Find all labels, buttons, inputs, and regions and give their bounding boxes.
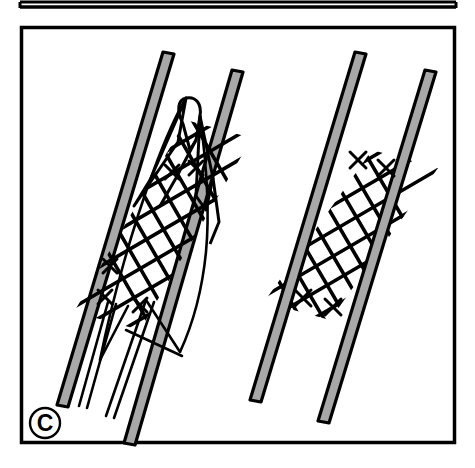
figure-root: C xyxy=(0,0,475,468)
panel-label-text: C xyxy=(37,410,54,436)
figure-canvas: C xyxy=(0,0,475,468)
panel-label-badge: C xyxy=(30,408,60,438)
